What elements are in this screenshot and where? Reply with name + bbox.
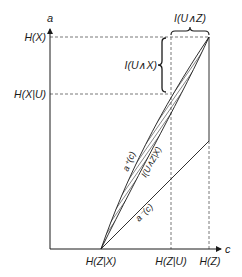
- rate-region-diagram: a c H(X) H(X|U) H(Z|X) H(Z|U) H(Z) I(U∧Z…: [0, 0, 242, 277]
- brace-label-iuz: I(U∧Z): [174, 12, 206, 24]
- curve-label-a-minus: a⁻(c): [133, 202, 155, 224]
- brace-label-iux: I(U∧X): [125, 59, 158, 71]
- x-axis-label: c: [225, 243, 231, 255]
- x-tick-hz: H(Z): [200, 255, 221, 267]
- y-tick-hxu: H(X|U): [14, 88, 46, 100]
- x-tick-hzx: H(Z|X): [86, 255, 117, 267]
- y-tick-hx: H(X): [24, 31, 46, 43]
- vertical-brace: [158, 38, 166, 92]
- y-axis-label: a: [47, 12, 53, 24]
- horizontal-brace: [171, 27, 209, 35]
- x-tick-hzu: H(Z|U): [155, 255, 186, 267]
